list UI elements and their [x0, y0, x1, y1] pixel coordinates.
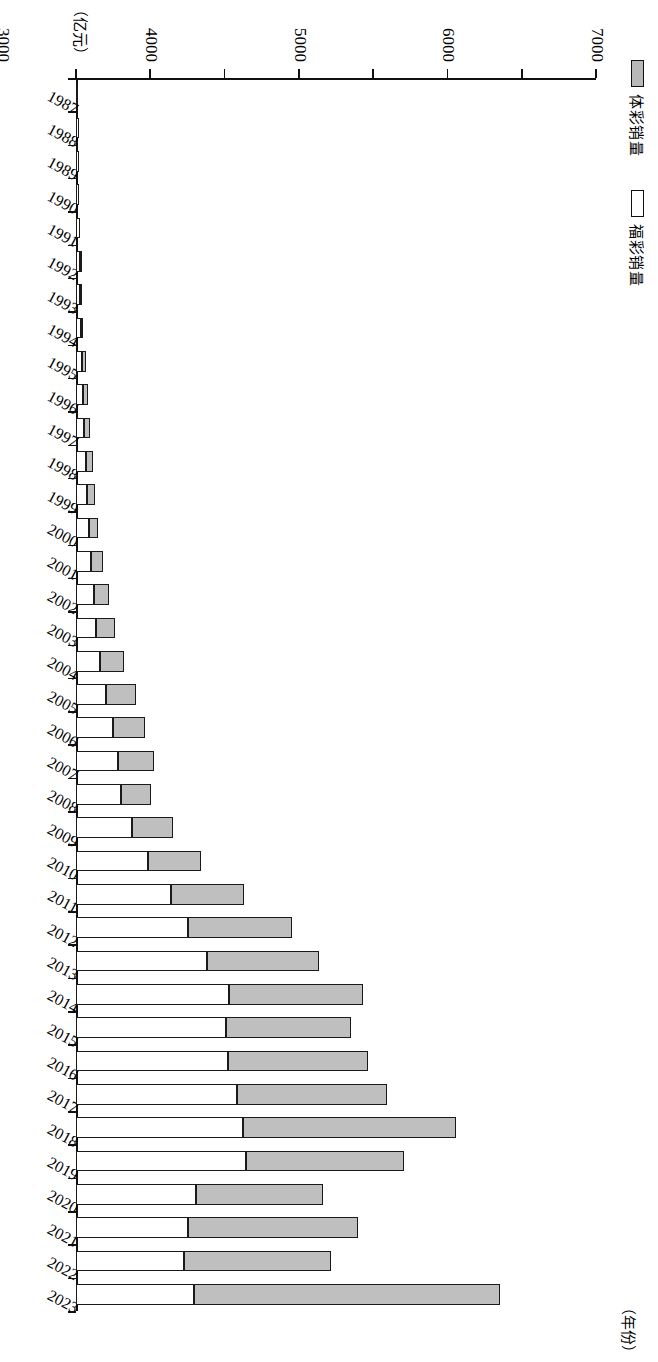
- category-tick: [68, 211, 76, 213]
- value-tick-label: 6000: [438, 28, 458, 62]
- bar-segment-fucai: [76, 784, 121, 805]
- bar-stack: [76, 717, 145, 738]
- bar-stack: [76, 917, 292, 938]
- bar-segment-ticai: [82, 351, 85, 372]
- value-axis-line: [76, 78, 596, 80]
- bar-stack: [76, 551, 103, 572]
- bar-segment-ticai: [83, 384, 87, 405]
- bar-segment-fucai: [76, 118, 79, 139]
- value-tick: 4000: [372, 69, 374, 78]
- bar-stack: [76, 751, 154, 772]
- bar-stack: [76, 1284, 500, 1305]
- bar-segment-ticai: [196, 1184, 323, 1205]
- category-tick: [68, 1044, 76, 1046]
- bar-segment-ticai: [86, 451, 93, 472]
- bar-segment-fucai: [76, 618, 96, 639]
- category-tick: [68, 1111, 76, 1113]
- bar-stack: [76, 118, 79, 139]
- bar-stack: [76, 584, 109, 605]
- category-tick: [68, 1311, 76, 1313]
- bar-segment-fucai: [76, 1017, 226, 1038]
- category-tick: [68, 1078, 76, 1080]
- legend-item-ticai: 体彩销量: [627, 60, 648, 156]
- bar-segment-fucai: [76, 851, 148, 872]
- bar-stack: [76, 351, 86, 372]
- category-tick: [68, 511, 76, 513]
- bar-stack: [76, 1084, 387, 1105]
- category-tick: [68, 1244, 76, 1246]
- bar-segment-fucai: [76, 1251, 184, 1272]
- bar-segment-fucai: [76, 951, 207, 972]
- value-tick: 1000: [150, 69, 152, 78]
- bar-segment-fucai: [76, 1184, 196, 1205]
- category-tick: [68, 345, 76, 347]
- bar-segment-ticai: [96, 618, 115, 639]
- bar-stack: [76, 251, 82, 272]
- category-tick: [68, 778, 76, 780]
- bar-segment-fucai: [76, 751, 118, 772]
- category-axis-unit: （年份）: [619, 1300, 640, 1360]
- bar-segment-fucai: [76, 318, 81, 339]
- bar-segment-fucai: [76, 1217, 188, 1238]
- value-axis-unit: （亿元）: [71, 2, 92, 62]
- bar-segment-ticai: [106, 684, 136, 705]
- category-tick: [68, 378, 76, 380]
- bar-segment-fucai: [76, 884, 171, 905]
- value-tick-label: 7000: [587, 28, 607, 62]
- rotated-page-wrapper: 体彩销量 福彩销量 （亿元） （年份） 01000200030004000500…: [0, 0, 658, 1362]
- bar-segment-ticai: [148, 851, 201, 872]
- bar-segment-ticai: [188, 1217, 358, 1238]
- bar-segment-fucai: [76, 1084, 237, 1105]
- bar-segment-ticai: [246, 1151, 404, 1172]
- bar-stack: [76, 951, 319, 972]
- value-tick: 2000: [224, 69, 226, 78]
- bar-segment-ticai: [207, 951, 319, 972]
- bar-segment-ticai: [118, 751, 154, 772]
- bar-segment-fucai: [76, 584, 94, 605]
- bar-stack: [76, 1017, 351, 1038]
- plot-area: 01000200030004000500060007000 1987198819…: [76, 78, 596, 1311]
- bar-segment-fucai: [76, 84, 78, 105]
- category-tick: [68, 811, 76, 813]
- bar-segment-fucai: [76, 1051, 228, 1072]
- category-tick: [68, 1278, 76, 1280]
- category-tick: [68, 111, 76, 113]
- bar-segment-fucai: [76, 684, 106, 705]
- bar-segment-fucai: [76, 484, 87, 505]
- bar-segment-fucai: [76, 384, 83, 405]
- bar-segment-ticai: [132, 817, 173, 838]
- category-tick: [68, 445, 76, 447]
- legend-label-ticai: 体彩销量: [627, 94, 648, 156]
- bar-stack: [76, 1184, 323, 1205]
- bar-segment-ticai: [80, 251, 82, 272]
- category-tick: [68, 944, 76, 946]
- bar-stack: [76, 284, 82, 305]
- bar-stack: [76, 1251, 331, 1272]
- bar-segment-fucai: [76, 917, 188, 938]
- bar-stack: [76, 1151, 404, 1172]
- bar-segment-ticai: [89, 518, 99, 539]
- bar-segment-fucai: [76, 1284, 194, 1305]
- bar-segment-ticai: [80, 284, 82, 305]
- bar-segment-fucai: [76, 1151, 246, 1172]
- bar-segment-fucai: [76, 518, 89, 539]
- category-tick: [68, 911, 76, 913]
- bar-segment-fucai: [76, 551, 91, 572]
- bar-segment-ticai: [91, 551, 103, 572]
- legend-item-fucai: 福彩销量: [627, 190, 648, 286]
- value-tick-label: 5000: [290, 28, 310, 62]
- bar-segment-fucai: [76, 251, 80, 272]
- bar-stack: [76, 884, 244, 905]
- category-tick: [68, 1011, 76, 1013]
- bar-segment-ticai: [84, 418, 90, 439]
- bar-segment-ticai: [228, 1051, 368, 1072]
- category-tick: [68, 978, 76, 980]
- bar-segment-fucai: [76, 1117, 243, 1138]
- bar-segment-ticai: [184, 1251, 331, 1272]
- value-tick: 3000: [298, 69, 300, 78]
- legend-swatch-ticai: [631, 60, 644, 87]
- category-tick: [68, 545, 76, 547]
- bar-stack: [76, 84, 78, 105]
- value-tick-label: 4000: [141, 28, 161, 62]
- bar-stack: [76, 184, 79, 205]
